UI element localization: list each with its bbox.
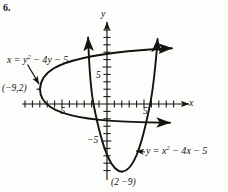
y-tick-label-neg5: −5 — [87, 136, 98, 146]
eq2-minus-1: − — [173, 145, 179, 156]
eq2-lhs: y — [146, 145, 151, 156]
y-tick-label-pos5: 5 — [96, 71, 101, 81]
vertex-label-upward-parabola: (2 −9) — [111, 178, 136, 188]
graph-figure — [0, 0, 228, 192]
x-axis-label: x — [189, 98, 193, 108]
y-axis-label: y — [101, 9, 105, 19]
eq-exponent: 2 — [28, 53, 31, 60]
eq2-term-2: 4x — [181, 145, 191, 156]
x-tick-label-neg5: −5 — [54, 107, 65, 117]
eq-equals: = — [14, 54, 20, 65]
eq-constant: 5 — [63, 54, 68, 65]
leader-arrow-sideways-equation — [28, 65, 40, 85]
vertex-label-sideways-parabola: (−9,2) — [2, 84, 27, 94]
x-tick-label-pos5: 5 — [143, 107, 148, 117]
eq-lhs: x — [7, 54, 12, 65]
eq-term-2: 4y — [42, 54, 52, 65]
eq2-minus-2: − — [194, 145, 200, 156]
problem-number: 6. — [3, 3, 11, 13]
eq2-equals: = — [153, 145, 159, 156]
equation-label-sideways-parabola: x = y2 − 4y − 5 — [7, 55, 69, 65]
eq2-constant: 5 — [202, 145, 207, 156]
equation-label-upward-parabola: y = x2 − 4x − 5 — [146, 146, 208, 156]
eq-minus-2: − — [55, 54, 61, 65]
eq-minus-1: − — [34, 54, 40, 65]
eq2-exponent: 2 — [167, 144, 170, 151]
